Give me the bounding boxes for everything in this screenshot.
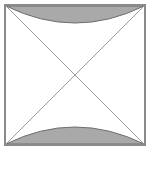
geometry-figure: [0, 0, 152, 170]
figure-canvas: [0, 0, 152, 170]
